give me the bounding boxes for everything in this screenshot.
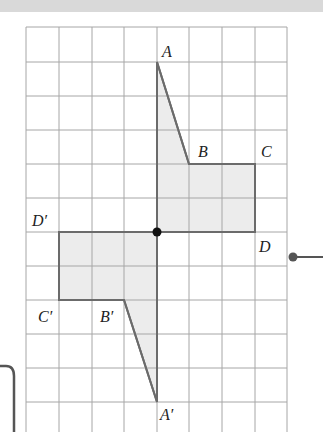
left-bracket — [0, 366, 14, 432]
label-b: B — [198, 143, 208, 160]
reflection-diagram: A B C D D′ C′ B′ A′ — [0, 0, 323, 432]
label-d-prime: D′ — [31, 212, 48, 229]
label-c: C — [261, 143, 272, 160]
label-a-prime: A′ — [159, 406, 174, 423]
label-d: D — [258, 238, 271, 255]
label-b-prime: B′ — [100, 308, 114, 325]
label-a: A — [161, 43, 172, 60]
center-point — [153, 228, 162, 237]
label-c-prime: C′ — [38, 308, 53, 325]
